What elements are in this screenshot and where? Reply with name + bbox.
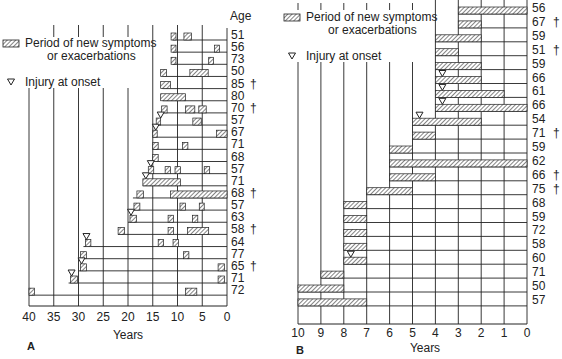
- age-label: 66: [532, 71, 546, 85]
- patient-row: 59: [390, 140, 546, 154]
- symptom-period-bar: [130, 215, 136, 222]
- deceased-dagger-icon: †: [553, 182, 560, 196]
- patient-row: 71: [142, 173, 244, 188]
- symptom-period-bar: [137, 191, 143, 198]
- x-tick-label: 8: [340, 326, 347, 340]
- symptom-period-bar: [204, 167, 209, 174]
- legend-b: Period of new symptomsor exacerbationsIn…: [284, 10, 437, 63]
- patient-row: 60: [344, 251, 546, 265]
- symptom-period-bar: [71, 276, 78, 283]
- symptom-period-bar: [192, 215, 197, 222]
- deceased-dagger-icon: †: [250, 222, 257, 236]
- symptom-period-bar: [171, 191, 227, 198]
- x-tick-label: 5: [199, 310, 206, 324]
- x-tick-label: 40: [22, 310, 36, 324]
- patient-row: 66†: [390, 168, 560, 182]
- symptom-period-bar: [218, 264, 224, 271]
- symptom-period-bar: [413, 118, 482, 125]
- patient-row: 57: [133, 198, 245, 212]
- injury-triangle-icon: [128, 209, 135, 215]
- age-label: 72: [532, 223, 546, 237]
- x-tick-label: 2: [478, 326, 485, 340]
- patient-row: 59: [344, 210, 546, 224]
- hatch-swatch-icon: [284, 14, 300, 21]
- symptom-period-bar: [344, 243, 367, 250]
- symptom-period-bar: [29, 288, 34, 295]
- symptom-period-bar: [187, 227, 208, 234]
- deceased-dagger-icon: †: [250, 77, 257, 91]
- symptom-period-bar: [390, 160, 527, 167]
- x-tick-label: 0: [224, 310, 231, 324]
- symptom-period-bar: [171, 33, 176, 40]
- age-label: 66: [532, 168, 546, 182]
- x-tick-label: 25: [97, 310, 111, 324]
- x-tick-label: 0: [524, 326, 531, 340]
- symptom-period-bar: [190, 69, 208, 76]
- symptom-period-bar: [217, 130, 227, 137]
- patient-row: 56: [458, 1, 545, 15]
- age-label: 59: [532, 57, 546, 71]
- age-label: 67: [532, 15, 546, 29]
- symptom-period-bar: [161, 82, 171, 89]
- x-tick-label: 9: [318, 326, 325, 340]
- symptom-period-bar: [321, 271, 344, 278]
- patient-row: 66: [435, 71, 545, 85]
- patient-row: 59: [435, 29, 545, 43]
- symptom-period-bar: [390, 174, 436, 181]
- x-tick-label: 5: [409, 326, 416, 340]
- injury-triangle-icon: [416, 112, 423, 118]
- injury-triangle-icon: [157, 112, 164, 118]
- patient-row: 57: [298, 293, 546, 307]
- age-header: Age: [230, 9, 252, 23]
- symptom-period-bar: [199, 203, 204, 210]
- patient-row: 64: [83, 234, 245, 249]
- symptom-period-bar: [435, 90, 504, 97]
- injury-triangle-icon: [147, 161, 154, 167]
- age-label: 54: [532, 112, 546, 126]
- symptom-period-bar: [344, 229, 367, 236]
- injury-triangle-icon: [347, 251, 354, 257]
- symptom-period-bar: [458, 21, 481, 28]
- injury-triangle-icon: [152, 124, 159, 130]
- x-tick-label: 1: [501, 326, 508, 340]
- age-label: 58: [532, 237, 546, 251]
- x-tick-label: 20: [121, 310, 135, 324]
- injury-triangle-icon: [142, 173, 149, 179]
- injury-triangle-icon: [439, 71, 446, 77]
- legend-injury-label: Injury at onset: [306, 49, 382, 63]
- symptom-period-bar: [80, 264, 86, 271]
- deceased-dagger-icon: †: [553, 15, 560, 29]
- legend-injury-label: Injury at onset: [25, 75, 101, 89]
- deceased-dagger-icon: †: [553, 126, 560, 140]
- patient-row: 62: [390, 154, 546, 168]
- legend-symptoms-label: Period of new symptoms: [306, 10, 437, 24]
- legend-symptoms-label-2: or exacerbations: [47, 49, 136, 63]
- symptom-period-bar: [168, 215, 173, 222]
- deceased-dagger-icon: †: [250, 186, 257, 200]
- symptom-period-bar: [185, 106, 194, 113]
- x-tick-label: 3: [455, 326, 462, 340]
- symptom-period-bar: [153, 142, 158, 149]
- injury-triangle-icon: [289, 53, 296, 59]
- patient-row: 65†: [78, 258, 257, 273]
- x-tick-label: 35: [47, 310, 61, 324]
- symptom-period-bar: [171, 57, 176, 64]
- injury-triangle-icon: [8, 79, 15, 85]
- age-label: 66: [532, 98, 546, 112]
- symptom-period-bar: [193, 118, 201, 125]
- age-label: 61: [532, 84, 546, 98]
- age-label: 72: [231, 283, 245, 297]
- symptom-period-bar: [298, 285, 344, 292]
- patient-row: 50: [298, 279, 546, 293]
- x-tick-label: 6: [386, 326, 393, 340]
- legend-symptoms-label: Period of new symptoms: [25, 36, 156, 50]
- age-label: 62: [532, 154, 546, 168]
- patient-row: 67†: [458, 15, 559, 29]
- patient-row: 72: [344, 223, 546, 237]
- injury-triangle-icon: [439, 84, 446, 90]
- figure: 4035302520151050YearsAAge5156735085†8070…: [0, 0, 562, 359]
- patient-row: 66: [435, 98, 545, 112]
- x-tick-label: 4: [432, 326, 439, 340]
- symptom-period-bar: [413, 132, 436, 139]
- legend-a: Period of new symptomsor exacerbationsIn…: [3, 36, 156, 89]
